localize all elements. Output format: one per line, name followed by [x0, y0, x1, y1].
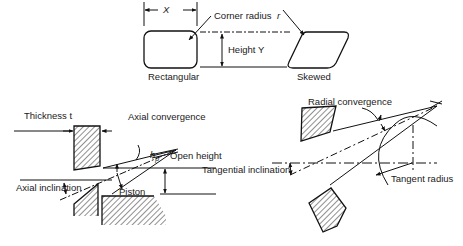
diagram-drawing	[0, 0, 463, 246]
thickness-label: Thickness t	[24, 111, 72, 121]
tangential-inclination-label: Tangential inclination	[202, 165, 290, 175]
rectangular-label: Rectangular	[148, 72, 199, 82]
axial-convergence-label: Axial convergence	[128, 112, 206, 122]
rectangular-port-shape	[144, 31, 197, 68]
piston-label: Piston	[119, 187, 145, 197]
skewed-port-shape	[288, 32, 348, 68]
dimension-x-label: X	[163, 5, 169, 15]
radius-symbol-label: r	[277, 11, 280, 21]
height-y-label: Height Y	[228, 45, 264, 55]
skewed-label: Skewed	[297, 72, 331, 82]
open-height-label: Open height	[170, 151, 222, 161]
hp-symbol-label: hp	[150, 150, 159, 162]
port-geometry-diagram: X Corner radius r Height Y Rectangular S…	[0, 0, 463, 246]
corner-radius-label: Corner radius	[214, 11, 272, 21]
axial-inclination-label: Axial inclination	[16, 183, 81, 193]
tangent-radius-label: Tangent radius	[391, 174, 453, 184]
radial-convergence-label: Radial convergence	[308, 97, 392, 107]
